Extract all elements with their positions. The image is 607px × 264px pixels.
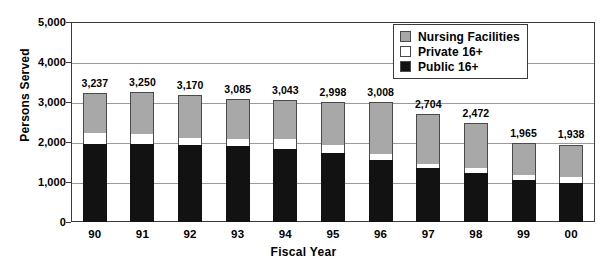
- y-tick-label: 5,000: [20, 17, 66, 27]
- legend-swatch-icon: [400, 31, 411, 42]
- bar-value-label: 3,085: [212, 84, 264, 95]
- y-tick-label: 0: [20, 217, 66, 227]
- legend-item[interactable]: Private 16+: [400, 44, 520, 59]
- bar-segment-public[interactable]: [321, 153, 345, 222]
- chart-canvas: Persons Served 01,0002,0003,0004,0005,00…: [0, 0, 607, 264]
- x-tick-label: 96: [355, 228, 407, 240]
- x-tick-label: 97: [402, 228, 454, 240]
- y-tick-label: 1,000: [20, 177, 66, 187]
- bar-segment-nursing[interactable]: [83, 93, 107, 134]
- bar-segment-nursing[interactable]: [130, 92, 154, 134]
- bar-segment-public[interactable]: [273, 149, 297, 222]
- bar-value-label: 1,938: [545, 129, 597, 140]
- bar-segment-nursing[interactable]: [559, 145, 583, 178]
- legend-label: Nursing Facilities: [418, 30, 520, 44]
- bar-segment-public[interactable]: [559, 183, 583, 222]
- y-tick-mark: [66, 222, 71, 223]
- bar-segment-public[interactable]: [83, 144, 107, 222]
- y-tick-label: 4,000: [20, 57, 66, 67]
- bar-value-label: 2,472: [450, 108, 502, 119]
- x-tick-label: 95: [307, 228, 359, 240]
- bar-stack[interactable]: [130, 92, 154, 222]
- bar-segment-public[interactable]: [369, 160, 393, 222]
- bar-stack[interactable]: [559, 145, 583, 223]
- bar-stack[interactable]: [321, 102, 345, 222]
- x-tick-label: 94: [259, 228, 311, 240]
- bar-segment-public[interactable]: [130, 144, 154, 222]
- bar-stack[interactable]: [273, 100, 297, 222]
- bar-segment-nursing[interactable]: [273, 100, 297, 139]
- bar-segment-private[interactable]: [178, 138, 202, 145]
- bar-segment-nursing[interactable]: [321, 102, 345, 145]
- bar-segment-nursing[interactable]: [178, 95, 202, 138]
- bar-segment-nursing[interactable]: [369, 102, 393, 155]
- bar-value-label: 3,237: [69, 78, 121, 89]
- bar-segment-public[interactable]: [178, 145, 202, 222]
- chart-legend: Nursing FacilitiesPrivate 16+Public 16+: [393, 24, 528, 79]
- bar-segment-nursing[interactable]: [464, 123, 488, 168]
- y-tick-label: 3,000: [20, 97, 66, 107]
- legend-swatch-icon: [400, 61, 411, 72]
- bar-stack[interactable]: [178, 95, 202, 222]
- x-tick-label: 93: [212, 228, 264, 240]
- bar-stack[interactable]: [416, 114, 440, 222]
- bar-segment-private[interactable]: [130, 134, 154, 145]
- bar-value-label: 3,043: [259, 85, 311, 96]
- bar-value-label: 1,965: [498, 128, 550, 139]
- x-tick-label: 98: [450, 228, 502, 240]
- bar-segment-public[interactable]: [226, 146, 250, 222]
- bar-value-label: 2,704: [402, 99, 454, 110]
- x-tick-label: 99: [498, 228, 550, 240]
- clipped-chart-title: [0, 0, 607, 1]
- bar-segment-nursing[interactable]: [226, 99, 250, 139]
- legend-label: Public 16+: [418, 60, 479, 74]
- y-tick-label: 2,000: [20, 137, 66, 147]
- x-tick-label: 90: [69, 228, 121, 240]
- bar-stack[interactable]: [226, 99, 250, 222]
- y-axis-tick-labels: 01,0002,0003,0004,0005,000: [18, 0, 66, 264]
- x-axis-title: Fiscal Year: [0, 245, 607, 259]
- bar-stack[interactable]: [83, 93, 107, 222]
- bar-segment-private[interactable]: [273, 139, 297, 149]
- bar-stack[interactable]: [512, 143, 536, 222]
- x-tick-label: 00: [545, 228, 597, 240]
- bar-value-label: 3,008: [355, 87, 407, 98]
- legend-item[interactable]: Public 16+: [400, 59, 520, 74]
- bar-segment-private[interactable]: [321, 145, 345, 153]
- bar-value-label: 2,998: [307, 87, 359, 98]
- bar-segment-public[interactable]: [512, 180, 536, 222]
- bar-stack[interactable]: [369, 102, 393, 222]
- legend-label: Private 16+: [418, 45, 483, 59]
- legend-swatch-icon: [400, 46, 411, 57]
- x-tick-label: 92: [164, 228, 216, 240]
- bar-segment-nursing[interactable]: [416, 114, 440, 164]
- bar-segment-public[interactable]: [464, 173, 488, 222]
- bar-segment-private[interactable]: [83, 133, 107, 144]
- x-axis-tick-labels: 9091929394959697989900: [71, 228, 595, 246]
- legend-item[interactable]: Nursing Facilities: [400, 29, 520, 44]
- bar-value-label: 3,250: [116, 77, 168, 88]
- bar-segment-public[interactable]: [416, 168, 440, 222]
- bar-segment-private[interactable]: [226, 139, 250, 147]
- bar-value-label: 3,170: [164, 80, 216, 91]
- bar-stack[interactable]: [464, 123, 488, 222]
- x-tick-label: 91: [116, 228, 168, 240]
- bar-segment-nursing[interactable]: [512, 143, 536, 175]
